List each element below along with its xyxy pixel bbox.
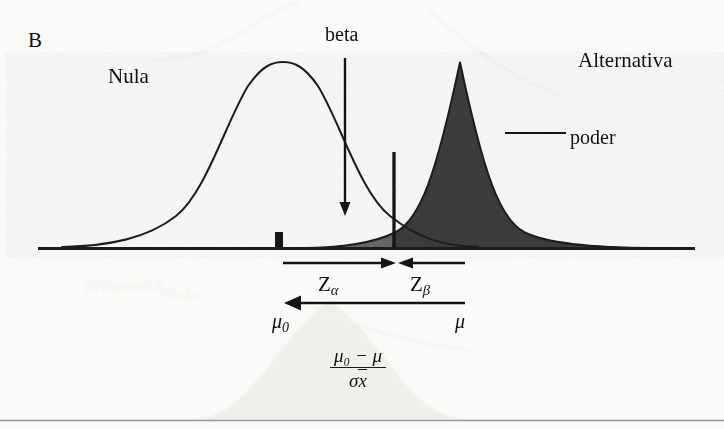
z-alpha-base: Z [318, 272, 331, 296]
svg-text:Alternativa: Alternativa [84, 276, 165, 296]
z-beta-subscript: β [423, 282, 430, 298]
z-beta-base: Z [410, 272, 423, 296]
mu-base: μ [455, 310, 465, 332]
alpha-region-marker [275, 232, 283, 248]
panel-label: B [28, 30, 42, 51]
z-alpha-label: Zα [318, 272, 339, 299]
z-alpha-subscript: α [331, 282, 339, 298]
mu-zero-base: μ [272, 310, 282, 332]
effect-size-denominator: σx [330, 368, 386, 391]
z-beta-label: Zβ [410, 272, 430, 299]
sigma-subscript-xbar: x [358, 370, 366, 391]
power-label: poder [570, 127, 616, 147]
svg-text:Nula: Nula [165, 285, 199, 304]
alternative-curve-label: Alternativa [578, 50, 672, 71]
null-curve-label: Nula [108, 66, 149, 87]
mu-zero-label: μ0 [272, 310, 289, 336]
beta-label: beta [325, 24, 358, 44]
effect-size-numerator: μ₀ − μ [330, 345, 386, 368]
mu-label: μ [455, 310, 465, 333]
mu-zero-subscript: 0 [282, 320, 289, 335]
effect-size-formula: μ₀ − μ σx [330, 345, 386, 392]
